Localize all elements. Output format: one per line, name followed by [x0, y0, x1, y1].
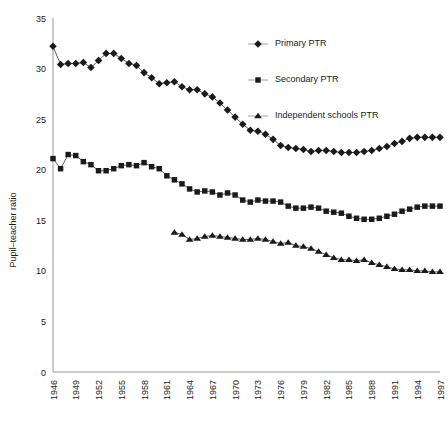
marker-square [301, 205, 306, 210]
marker-square [430, 203, 435, 208]
marker-square [157, 166, 162, 171]
y-axis-title: Pupil–teacher ratio [8, 192, 18, 267]
marker-square [437, 203, 442, 208]
x-tick-label: 1991 [390, 380, 400, 400]
marker-square [134, 163, 139, 168]
marker-square [126, 162, 131, 167]
x-tick-label: 1961 [162, 380, 172, 400]
marker-square [50, 156, 55, 161]
y-tick-label: 0 [41, 368, 46, 378]
marker-square [369, 217, 374, 222]
marker-square [187, 186, 192, 191]
marker-square [103, 168, 108, 173]
marker-square [377, 216, 382, 221]
marker-square [149, 164, 154, 169]
x-tick-label: 1976 [276, 380, 286, 400]
x-tick-label: 1970 [231, 380, 241, 400]
marker-square [210, 189, 215, 194]
marker-square [422, 203, 427, 208]
legend-label: Primary PTR [275, 38, 327, 48]
legend-label: Secondary PTR [275, 74, 339, 84]
marker-square [179, 181, 184, 186]
y-tick-label: 10 [36, 266, 46, 276]
marker-square [308, 204, 313, 209]
y-tick-label: 15 [36, 216, 46, 226]
x-tick-label: 1994 [413, 380, 423, 400]
x-tick-label: 1979 [299, 380, 309, 400]
legend-label: Independent schools PTR [275, 110, 379, 120]
y-tick-label: 20 [36, 165, 46, 175]
marker-square [111, 166, 116, 171]
x-tick-label: 1967 [208, 380, 218, 400]
marker-square [96, 168, 101, 173]
marker-square [202, 188, 207, 193]
marker-square [293, 205, 298, 210]
marker-square [232, 192, 237, 197]
x-tick-label: 1985 [344, 380, 354, 400]
marker-square [225, 190, 230, 195]
x-tick-label: 1955 [117, 380, 127, 400]
y-tick-label: 30 [36, 64, 46, 74]
marker-square [240, 197, 245, 202]
x-tick-label: 1973 [253, 380, 263, 400]
marker-square [58, 166, 63, 171]
marker-square [354, 216, 359, 221]
marker-square [65, 152, 70, 157]
marker-square [392, 211, 397, 216]
marker-square [331, 209, 336, 214]
x-tick-label: 1949 [71, 380, 81, 400]
marker-square [384, 214, 389, 219]
marker-square [88, 162, 93, 167]
marker-square [194, 189, 199, 194]
x-tick-label: 1958 [140, 380, 150, 400]
marker-square [346, 214, 351, 219]
marker-square [255, 77, 260, 82]
marker-square [217, 192, 222, 197]
marker-square [339, 210, 344, 215]
x-tick-label: 1946 [49, 380, 59, 400]
marker-square [164, 173, 169, 178]
y-tick-label: 5 [41, 317, 46, 327]
marker-square [323, 208, 328, 213]
marker-square [263, 198, 268, 203]
y-tick-label: 35 [36, 14, 46, 24]
marker-square [172, 177, 177, 182]
marker-square [255, 197, 260, 202]
marker-square [361, 217, 366, 222]
y-tick-label: 25 [36, 115, 46, 125]
chart-container: 05101520253035 1946194919521955195819611… [0, 0, 448, 433]
marker-square [278, 199, 283, 204]
marker-square [248, 199, 253, 204]
marker-square [316, 205, 321, 210]
y-axis-title-text: Pupil–teacher ratio [8, 192, 18, 267]
marker-square [399, 208, 404, 213]
marker-square [73, 153, 78, 158]
x-tick-label: 1964 [185, 380, 195, 400]
marker-square [286, 203, 291, 208]
pupil-teacher-ratio-chart: 05101520253035 1946194919521955195819611… [0, 0, 448, 433]
x-tick-label: 1982 [322, 380, 332, 400]
marker-square [270, 198, 275, 203]
x-tick-label: 1997 [436, 380, 446, 400]
marker-square [141, 160, 146, 165]
marker-square [407, 206, 412, 211]
marker-square [119, 163, 124, 168]
marker-square [415, 204, 420, 209]
marker-square [81, 159, 86, 164]
x-tick-label: 1988 [367, 380, 377, 400]
x-tick-label: 1952 [94, 380, 104, 400]
